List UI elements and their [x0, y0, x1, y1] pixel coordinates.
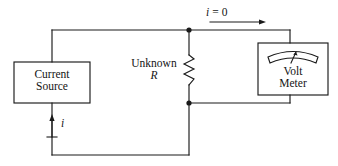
volt-meter-label-line1: Volt — [258, 65, 328, 77]
circuit-diagram: Current Source Volt Meter Unknown R i=0 … — [0, 0, 338, 166]
top-current-relation: = — [212, 6, 219, 18]
unknown-resistor-label: Unknown R — [124, 57, 184, 82]
source-current-label: i — [61, 117, 64, 129]
volt-meter-label: Volt Meter — [258, 65, 328, 90]
top-current-annotation: i=0 — [206, 6, 227, 18]
volt-meter-label-line2: Meter — [258, 77, 328, 89]
top-current-value: 0 — [222, 6, 228, 18]
junction-dot-bottom — [186, 100, 191, 105]
gauge-arc — [268, 52, 318, 64]
top-current-symbol: i — [206, 6, 209, 18]
source-current-arrow-head — [49, 114, 54, 121]
current-source-label: Current Source — [14, 68, 90, 93]
top-current-arrow-head — [259, 20, 266, 25]
unknown-resistor-label-line1: Unknown — [124, 57, 184, 69]
junction-dot-top — [186, 27, 191, 32]
current-source-label-line2: Source — [14, 80, 90, 92]
resistor-zigzag — [184, 55, 194, 85]
unknown-resistor-label-line2: R — [124, 69, 184, 81]
current-source-label-line1: Current — [14, 68, 90, 80]
